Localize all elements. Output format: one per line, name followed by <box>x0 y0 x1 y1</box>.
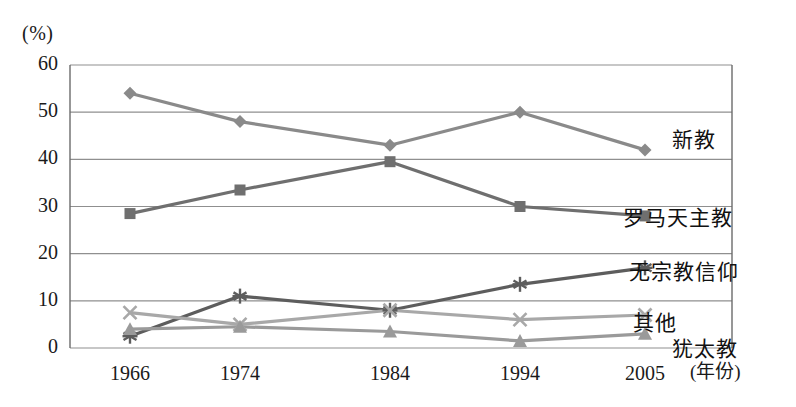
series-lines <box>130 93 645 341</box>
series-label-1: 罗马天主教 <box>623 201 733 231</box>
y-axis-tick-label: 40 <box>6 146 58 169</box>
x-axis-tick-label: 1966 <box>85 362 175 385</box>
x-axis-tick-label: 2005 <box>600 362 690 385</box>
chart-container: (%) 0102030405060 19661974198419942005 新… <box>0 0 796 407</box>
data-point-marker <box>124 87 137 100</box>
y-axis-tick-label: 20 <box>6 241 58 264</box>
x-axis-tick-label: 1984 <box>345 362 435 385</box>
data-point-marker <box>125 208 136 219</box>
data-point-marker <box>385 156 396 167</box>
data-point-marker <box>384 139 397 152</box>
series-markers <box>123 87 653 347</box>
series-label-0: 新教 <box>672 123 716 153</box>
y-axis-tick-label: 60 <box>6 52 58 75</box>
y-axis-tick-label: 0 <box>6 335 58 358</box>
series-line-1 <box>130 162 645 216</box>
data-point-marker <box>515 201 526 212</box>
series-label-2: 无宗教信仰 <box>629 255 739 285</box>
data-point-marker <box>234 115 247 128</box>
y-axis-tick-label: 10 <box>6 288 58 311</box>
data-point-marker <box>514 106 527 119</box>
y-axis-tick-label: 30 <box>6 194 58 217</box>
data-point-marker <box>639 143 652 156</box>
y-axis-tick-label: 50 <box>6 99 58 122</box>
x-axis-tick-label: 1994 <box>475 362 565 385</box>
series-label-3: 其他 <box>633 306 677 336</box>
data-point-marker <box>513 277 528 292</box>
data-point-marker <box>235 184 246 195</box>
x-axis-title: (年份) <box>690 356 741 383</box>
x-axis-tick-label: 1974 <box>195 362 285 385</box>
